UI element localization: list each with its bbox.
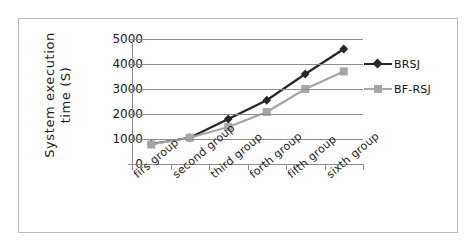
gridline [132,64,363,65]
legend-label: BRSJ [394,58,420,71]
chart-frame: System execution time (S) 01000200030004… [18,18,458,233]
legend-marker-diamond-icon [373,59,383,69]
legend-label: BF-RSJ [394,83,431,96]
series-line-bf-rsj [151,72,344,145]
legend-symbol-icon [364,83,392,95]
y-axis-title: System execution time (S) [38,20,78,170]
x-axis-tick-labels: firs groupsecond groupthird groupforth g… [132,171,392,231]
legend-marker-square-icon [374,85,382,93]
legend-symbol-icon [364,58,392,70]
gridline [132,39,363,40]
legend-entry-bf-rsj[interactable]: BF-RSJ [364,82,431,96]
data-point-marker [147,141,155,149]
x-axis-tick-mark [363,165,364,170]
y-axis-title-line-1: System execution [42,32,58,158]
data-point-marker [340,68,348,76]
gridline [132,114,363,115]
data-point-marker [186,134,194,142]
legend-entry-brsj[interactable]: BRSJ [364,57,420,71]
y-axis-title-line-2: time (S) [58,67,74,124]
gridline [132,89,363,90]
